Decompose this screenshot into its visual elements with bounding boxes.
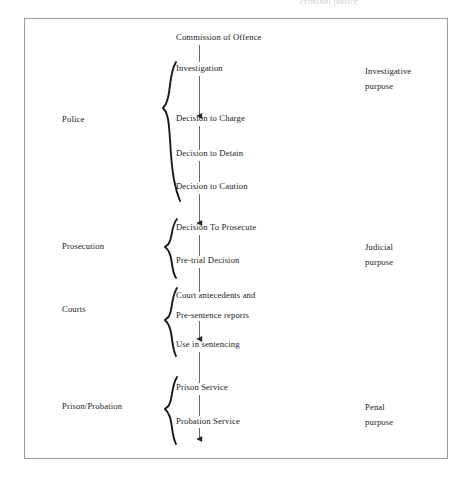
- purpose-investigative-line2: purpose: [365, 79, 411, 94]
- flow-node-pre-trial-decision: Pre-trial Decision: [176, 255, 240, 266]
- flow-node-court-antecedents: Court antecedents and: [176, 290, 256, 301]
- agency-label-police: Police: [62, 114, 84, 124]
- diagram-page: criminal justice: [0, 0, 468, 479]
- agency-label-prison-probation: Prison/Probation: [62, 401, 122, 411]
- flow-node-decision-to-charge: Decision to Charge: [176, 113, 245, 124]
- purpose-judicial-line1: Judicial: [365, 240, 393, 255]
- purpose-label-investigative: Investigative purpose: [365, 64, 411, 94]
- flow-node-investigation: Investigation: [176, 63, 223, 74]
- purpose-label-penal: Penal purpose: [365, 400, 393, 430]
- purpose-penal-line1: Penal: [365, 400, 393, 415]
- purpose-label-judicial: Judicial purpose: [365, 240, 393, 270]
- flow-node-decision-to-prosecute: Decision To Prosecute: [176, 222, 256, 233]
- purpose-judicial-line2: purpose: [365, 255, 393, 270]
- flow-node-prison-service: Prison Service: [176, 382, 228, 393]
- flow-node-probation-service: Probation Service: [176, 416, 240, 427]
- flow-node-decision-to-detain: Decision to Detain: [176, 148, 243, 159]
- purpose-investigative-line1: Investigative: [365, 64, 411, 79]
- flow-node-use-in-sentencing: Use in sentencing: [176, 339, 240, 350]
- flow-node-pre-sentence-reports: Pre-sentence reports: [176, 310, 249, 321]
- flow-node-commission-of-offence: Commission of Offence: [176, 32, 262, 43]
- cut-off-header-text: criminal justice: [300, 0, 460, 7]
- purpose-penal-line2: purpose: [365, 415, 393, 430]
- agency-label-courts: Courts: [62, 304, 86, 314]
- agency-label-prosecution: Prosecution: [62, 241, 104, 251]
- flow-node-decision-to-caution: Decision to Caution: [176, 181, 248, 192]
